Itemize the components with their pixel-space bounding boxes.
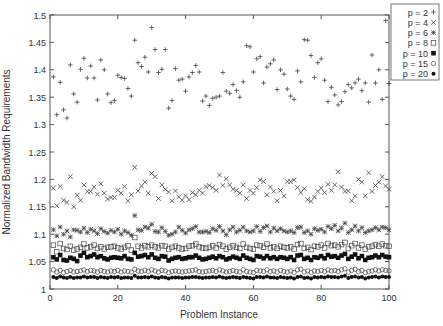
cross-marker	[332, 183, 337, 188]
cross-marker	[282, 194, 287, 199]
cross-marker	[102, 191, 107, 196]
plus-marker	[136, 60, 141, 65]
star-marker	[265, 224, 270, 229]
star-marker	[132, 213, 137, 218]
cross-marker	[221, 183, 226, 188]
open-square-marker	[65, 247, 70, 252]
filled-circle-marker	[289, 275, 293, 279]
filled-square-marker	[54, 257, 59, 262]
cross-marker	[238, 191, 243, 196]
star-marker	[156, 230, 161, 235]
cross-marker	[54, 203, 59, 208]
plus-marker	[122, 76, 127, 81]
cross-marker	[71, 205, 76, 210]
star-marker	[112, 230, 117, 235]
cross-marker	[112, 195, 117, 200]
filled-circle-marker	[143, 275, 147, 279]
plus-marker	[102, 68, 107, 73]
cross-marker	[187, 197, 192, 202]
filled-square-marker	[343, 252, 348, 257]
open-square-marker	[207, 245, 212, 250]
star-marker	[292, 230, 297, 235]
cross-marker	[302, 186, 307, 191]
star-marker	[251, 229, 256, 234]
cross-marker	[322, 190, 327, 195]
cross-marker	[363, 194, 368, 199]
plus-marker	[197, 70, 202, 75]
filled-circle-marker	[282, 275, 286, 279]
filled-circle-marker	[68, 275, 72, 279]
plus-marker	[105, 92, 110, 97]
star-marker	[58, 225, 63, 230]
open-square-marker	[217, 242, 222, 247]
cross-marker	[78, 198, 83, 203]
plus-marker	[88, 64, 93, 69]
filled-circle-marker	[350, 275, 354, 279]
plus-marker	[302, 37, 307, 42]
filled-circle-marker	[194, 275, 198, 279]
filled-circle-marker	[92, 275, 96, 279]
plus-marker	[292, 97, 297, 102]
open-square-marker	[319, 243, 324, 248]
legend-label: p = 20	[403, 69, 428, 79]
y-tick-label: 1.45	[28, 38, 46, 48]
filled-circle-marker	[72, 276, 76, 280]
plus-marker	[82, 56, 87, 61]
plus-marker	[217, 94, 222, 99]
filled-circle-marker	[112, 275, 116, 279]
plus-marker	[309, 53, 314, 58]
filled-circle-marker	[133, 274, 137, 278]
plus-marker	[143, 55, 148, 60]
filled-circle-marker	[360, 275, 364, 279]
open-square-marker	[322, 246, 327, 251]
filled-circle-marker	[156, 276, 160, 280]
cross-marker	[380, 174, 385, 179]
open-square-marker	[119, 247, 124, 252]
y-tick-label: 1.05	[28, 257, 46, 267]
plus-marker	[153, 47, 158, 52]
star-marker	[173, 230, 178, 235]
cross-marker	[319, 186, 324, 191]
open-square-marker	[227, 245, 232, 250]
cross-marker	[370, 189, 375, 194]
star-marker	[360, 225, 365, 230]
filled-circle-marker	[248, 276, 252, 280]
plus-marker	[241, 80, 246, 85]
plus-marker	[373, 81, 378, 86]
cross-marker	[356, 177, 361, 182]
open-square-marker	[299, 241, 304, 246]
filled-circle-marker	[262, 275, 266, 279]
filled-circle-marker	[323, 275, 327, 279]
star-marker	[95, 231, 100, 236]
plus-marker	[214, 95, 219, 100]
series-p2	[51, 18, 391, 120]
cross-marker	[271, 189, 276, 194]
open-square-marker	[75, 247, 80, 252]
plus-marker	[288, 94, 293, 99]
y-tick-label: 1.4	[33, 65, 46, 75]
filled-circle-marker	[187, 275, 191, 279]
plus-marker	[75, 100, 80, 105]
plus-marker	[146, 70, 151, 75]
open-square-marker	[51, 243, 56, 248]
filled-circle-marker	[99, 275, 103, 279]
filled-circle-marker	[140, 275, 144, 279]
open-square-marker	[238, 246, 243, 251]
plus-marker	[58, 80, 63, 85]
filled-circle-marker	[207, 275, 211, 279]
x-tick-label: 0	[47, 293, 52, 303]
plus-marker	[329, 85, 334, 90]
plus-marker	[173, 66, 178, 71]
open-square-marker	[373, 242, 378, 247]
filled-circle-marker	[82, 274, 86, 278]
cross-marker	[92, 185, 97, 190]
plus-marker	[78, 67, 83, 72]
cross-marker	[326, 182, 331, 187]
star-marker	[193, 224, 198, 229]
open-square-marker	[234, 245, 239, 250]
filled-circle-marker	[295, 275, 299, 279]
filled-circle-marker	[177, 275, 181, 279]
plus-marker	[258, 54, 263, 59]
filled-circle-marker	[319, 275, 323, 279]
cross-marker	[88, 189, 93, 194]
